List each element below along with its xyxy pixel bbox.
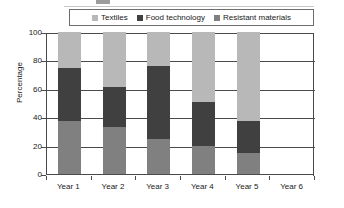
legend-entry: Food technology (137, 14, 205, 22)
x-tick-mark (180, 176, 181, 180)
legend-entry: Resistant materials (214, 14, 291, 22)
bar-year-3 (147, 32, 170, 174)
cropped-artifact-rule (64, 6, 314, 7)
x-tick-mark (135, 176, 136, 180)
x-tick-label: Year 6 (262, 183, 322, 191)
bar-segment-textiles (237, 32, 260, 121)
legend-swatch-icon (92, 15, 98, 21)
x-tick-mark (269, 176, 270, 180)
cropped-artifact-mark (96, 0, 110, 4)
bar-segment-food-technology (237, 121, 260, 152)
stacked-bar-chart: TextilesFood technologyResistant materia… (0, 0, 344, 208)
bar-segment-food-technology (147, 66, 170, 138)
legend-entry: Textiles (92, 14, 128, 22)
bar-segment-textiles (147, 32, 170, 66)
gridline (47, 61, 315, 62)
bar-year-6 (281, 32, 304, 174)
plot-area (46, 33, 314, 175)
bar-segment-resistant-materials (147, 139, 170, 175)
chart-legend: TextilesFood technologyResistant materia… (69, 9, 314, 26)
legend-label: Textiles (101, 14, 128, 22)
legend-label: Resistant materials (223, 14, 291, 22)
bar-year-1 (58, 32, 81, 174)
bar-segment-textiles (192, 32, 215, 102)
bar-segment-textiles (103, 32, 126, 87)
bar-year-5 (237, 32, 260, 174)
x-tick-mark (225, 176, 226, 180)
y-tick-label: 100 (29, 29, 42, 37)
x-tick-mark (91, 176, 92, 180)
bar-segment-textiles (58, 32, 81, 68)
gridline (47, 90, 315, 91)
bar-year-4 (192, 32, 215, 174)
bar-segment-resistant-materials (192, 146, 215, 174)
bar-segment-food-technology (58, 68, 81, 122)
bar-segment-food-technology (103, 87, 126, 127)
bar-segment-resistant-materials (58, 121, 81, 174)
x-tick-mark (314, 176, 315, 180)
bar-segment-resistant-materials (103, 127, 126, 174)
legend-swatch-icon (214, 15, 220, 21)
bar-year-2 (103, 32, 126, 174)
gridline (47, 118, 315, 119)
gridline (47, 147, 315, 148)
y-axis-ticks: 020406080100 (0, 33, 42, 175)
legend-swatch-icon (137, 15, 143, 21)
bar-segment-resistant-materials (237, 153, 260, 174)
legend-label: Food technology (146, 14, 205, 22)
x-tick-mark (46, 176, 47, 180)
bar-segment-food-technology (192, 102, 215, 146)
